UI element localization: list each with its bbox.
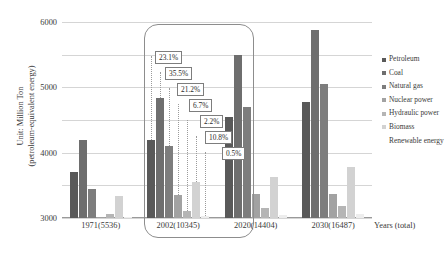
legend-item: Coal	[382, 69, 446, 78]
callout-leader-line	[196, 136, 197, 182]
callout-leader-line	[160, 72, 161, 98]
legend-label: Renewable energy	[389, 137, 444, 146]
y-axis-title-line1: Unit: Million Ton	[16, 87, 25, 146]
bar	[106, 214, 114, 218]
callout-percentage-label: 35.5%	[165, 67, 192, 80]
bar	[234, 55, 242, 218]
bar	[311, 30, 319, 218]
callout-leader-line	[205, 152, 206, 216]
bar	[356, 214, 364, 218]
x-axis-labels: 1971(5536)2002(10345)2020(14404)2030(164…	[62, 221, 372, 230]
bar	[147, 140, 155, 218]
bar	[88, 189, 96, 218]
y-axis-title: Unit: Million Ton (petroleum-equivalent …	[15, 21, 37, 211]
legend-swatch-icon	[382, 112, 386, 116]
callout-percentage-label: 2.2%	[200, 115, 223, 128]
x-axis-tick-label: 2020(14404)	[217, 221, 295, 230]
legend-item: Natural gas	[382, 82, 446, 91]
y-axis-tick-label: 5000	[40, 83, 57, 92]
legend-item: Petroleum	[382, 55, 446, 64]
y-axis-tick-label: 3000	[40, 214, 57, 223]
bar	[252, 194, 260, 219]
bar-group	[295, 22, 373, 218]
bar	[329, 194, 337, 218]
legend-swatch-icon	[382, 85, 386, 89]
legend-item: Biomass	[382, 123, 446, 132]
bar	[156, 98, 164, 218]
bar	[270, 177, 278, 218]
x-axis-title: Years (total)	[374, 221, 415, 230]
legend: PetroleumCoalNatural gasNuclear powerHyd…	[382, 55, 446, 150]
x-axis-tick-label: 2030(16487)	[295, 221, 373, 230]
bar	[338, 206, 346, 218]
bar	[115, 196, 123, 218]
bar	[183, 211, 191, 218]
legend-swatch-icon	[382, 125, 386, 129]
bar	[320, 84, 328, 218]
x-axis-tick-label: 2002(10345)	[140, 221, 218, 230]
bar	[201, 216, 209, 218]
legend-swatch-icon	[382, 139, 386, 143]
legend-item: Hydraulic power	[382, 109, 446, 118]
callout-percentage-label: 21.2%	[177, 83, 204, 96]
bar	[347, 167, 355, 218]
bar	[192, 182, 200, 218]
energy-bar-chart: Unit: Million Ton (petroleum-equivalent …	[0, 0, 446, 259]
legend-label: Nuclear power	[389, 96, 433, 105]
legend-item: Renewable energy	[382, 137, 446, 146]
bar	[165, 146, 173, 218]
bar-group	[217, 22, 295, 218]
y-axis-tick-label: 4000	[40, 148, 57, 157]
legend-swatch-icon	[382, 98, 386, 102]
legend-item: Nuclear power	[382, 96, 446, 105]
legend-label: Petroleum	[389, 55, 419, 64]
legend-label: Hydraulic power	[389, 109, 439, 118]
bar	[174, 195, 182, 218]
bar	[124, 217, 132, 218]
callout-leader-line	[169, 88, 170, 146]
callout-percentage-label: 10.8%	[205, 131, 232, 144]
callout-percentage-label: 6.7%	[189, 99, 212, 112]
y-axis-title-line2: (petroleum-equivalent energy)	[26, 21, 37, 211]
y-axis-tick-label: 6000	[40, 18, 57, 27]
callout-leader-line	[187, 120, 188, 211]
bar-group	[62, 22, 140, 218]
bar	[79, 140, 87, 218]
bar	[70, 172, 78, 218]
bar	[302, 102, 310, 218]
x-axis-tick-label: 1971(5536)	[62, 221, 140, 230]
legend-swatch-icon	[382, 71, 386, 75]
callout-percentage-label: 23.1%	[155, 51, 182, 64]
callout-leader-line	[151, 56, 152, 140]
legend-label: Coal	[389, 69, 403, 78]
legend-swatch-icon	[382, 58, 386, 62]
legend-label: Biomass	[389, 123, 414, 132]
legend-label: Natural gas	[389, 82, 423, 91]
bar	[261, 208, 269, 218]
callout-percentage-label: 0.5%	[222, 147, 245, 160]
bar	[97, 217, 105, 218]
bar	[279, 215, 287, 218]
callout-leader-line	[178, 104, 179, 195]
gridline: 0	[62, 218, 372, 219]
bar	[243, 107, 251, 218]
